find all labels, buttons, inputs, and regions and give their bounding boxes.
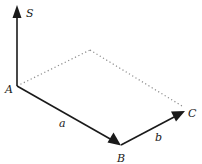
dotted-edge-d-to-c <box>90 50 182 106</box>
label-vector-b: b <box>155 131 162 144</box>
arrowhead-s-icon <box>13 5 22 18</box>
label-c-point: C <box>188 107 197 120</box>
vector-a-line <box>17 86 112 140</box>
label-b-point: B <box>116 152 125 164</box>
vector-diagram: S A B C a b <box>0 0 202 164</box>
label-a-point: A <box>4 83 13 96</box>
dotted-edge-a-to-d <box>17 50 90 86</box>
arrowhead-c-icon <box>171 111 185 122</box>
vector-b-line <box>121 116 176 145</box>
label-vector-a: a <box>59 117 66 130</box>
label-s: S <box>26 7 34 20</box>
